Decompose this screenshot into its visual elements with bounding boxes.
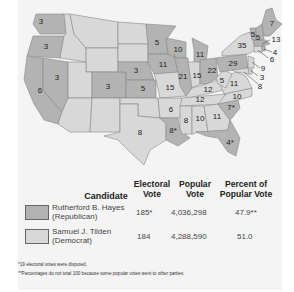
header-percent: Percent of Popular Vote	[214, 180, 278, 199]
footnote-percentages: **Percentages do not total 100 because s…	[18, 271, 185, 276]
state-north-dakota	[118, 22, 148, 44]
tilden-electoral: 184	[137, 232, 150, 241]
label-massachusetts: 13	[272, 35, 281, 44]
label-illinois: 21	[179, 72, 188, 81]
label-kansas: 5	[141, 84, 146, 93]
democrat-swatch	[25, 229, 49, 244]
label-georgia: 11	[213, 112, 222, 121]
label-north-carolina: 10	[233, 92, 242, 101]
label-virginia: 11	[230, 79, 239, 88]
label-tennessee: 12	[196, 95, 205, 104]
label-missouri: 15	[166, 83, 175, 92]
row-hayes-candidate: Rutherford B. Hayes (Republican)	[52, 203, 132, 221]
label-iowa: 11	[159, 60, 168, 69]
hayes-name: Rutherford B. Hayes	[52, 203, 132, 212]
label-new-york: 35	[238, 41, 247, 50]
label-mississippi: 8	[184, 116, 189, 125]
state-connecticut	[254, 46, 262, 52]
label-delaware: 3	[260, 73, 265, 82]
footnote-disputed: *19 electoral votes were disputed.	[18, 262, 87, 267]
label-new-jersey: 9	[261, 64, 266, 73]
label-oregon: 3	[44, 42, 49, 51]
label-ohio: 22	[208, 66, 217, 75]
label-new-hampshire: 5	[256, 33, 261, 42]
label-colorado: 3	[106, 82, 111, 91]
tilden-percent: 51.0	[237, 232, 253, 241]
tilden-name: Samuel J. Tilden	[52, 227, 132, 236]
label-pennsylvania: 29	[229, 59, 238, 68]
label-alabama: 10	[196, 114, 205, 123]
republican-swatch	[25, 205, 49, 220]
header-percent-line2: Popular Vote	[214, 190, 278, 200]
us-map-svg: 3 3 6 3 3 3 5 8 5 11 15 6 8* 10 21 11 15…	[0, 0, 294, 165]
label-indiana: 15	[193, 71, 202, 80]
label-wisconsin: 10	[174, 45, 183, 54]
label-nevada: 3	[55, 73, 60, 82]
label-kentucky: 12	[204, 85, 213, 94]
label-south-carolina: 7*	[227, 103, 235, 112]
hayes-popular: 4,036,298	[171, 208, 207, 217]
label-louisiana: 8*	[169, 126, 177, 135]
state-wyoming	[86, 48, 118, 72]
label-west-virginia: 5	[220, 76, 225, 85]
hayes-electoral: 185*	[136, 208, 152, 217]
label-connecticut: 6	[270, 55, 275, 64]
election-map: 3 3 6 3 3 3 5 8 5 11 15 6 8* 10 21 11 15…	[0, 0, 294, 165]
hayes-percent: 47.9**	[235, 208, 257, 217]
label-arkansas: 6	[169, 105, 174, 114]
label-maine: 7	[270, 19, 275, 28]
tilden-party: (Democrat)	[52, 236, 132, 245]
label-minnesota: 5	[155, 38, 160, 47]
label-florida: 4*	[226, 138, 234, 147]
label-nebraska: 3	[134, 66, 139, 75]
label-texas: 8	[138, 128, 143, 137]
state-rhode-island	[262, 46, 265, 51]
row-tilden-candidate: Samuel J. Tilden (Democrat)	[52, 227, 132, 245]
hayes-party: (Republican)	[52, 212, 132, 221]
state-south-dakota	[118, 44, 148, 62]
state-new-jersey	[248, 56, 254, 68]
tilden-popular: 4,288,590	[171, 232, 207, 241]
state-new-mexico	[90, 98, 120, 132]
label-california: 6	[38, 86, 43, 95]
label-maryland: 8	[258, 82, 263, 91]
label-washington: 3	[39, 17, 44, 26]
label-michigan: 11	[196, 50, 205, 59]
